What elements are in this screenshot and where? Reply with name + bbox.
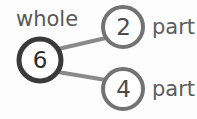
number-bond-diagram: 6 2 4 whole part part — [0, 0, 197, 119]
whole-circle — [19, 39, 61, 81]
part-label-top: part — [152, 17, 195, 38]
whole-label: whole — [16, 9, 78, 30]
connector-whole-to-part-top — [58, 38, 106, 49]
part-label-bottom: part — [152, 79, 195, 100]
part-circle-top — [103, 7, 143, 47]
connector-whole-to-part-bottom — [58, 72, 106, 80]
part-circle-bottom — [103, 69, 143, 109]
